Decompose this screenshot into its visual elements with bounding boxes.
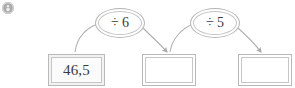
edge-box1-to-op1 (75, 24, 98, 52)
value-box-1[interactable]: 46,5 (48, 54, 105, 86)
operator-ellipse-1-inner: ÷ 6 (98, 11, 142, 35)
value-box-1-text: 46,5 (63, 63, 90, 78)
operator-ellipse-2-text: ÷ 5 (206, 16, 224, 30)
answer-box-2-inner (145, 57, 193, 83)
edge-box2-to-op2 (170, 24, 193, 52)
answer-box-2[interactable] (142, 54, 196, 86)
answer-box-3[interactable] (238, 54, 292, 86)
operator-ellipse-2[interactable]: ÷ 5 (190, 8, 240, 38)
operator-ellipse-2-inner: ÷ 5 (193, 11, 237, 35)
value-box-1-inner: 46,5 (51, 57, 102, 83)
edge-op1-to-box2 (143, 28, 167, 52)
edge-op2-to-box3 (238, 28, 261, 52)
operator-ellipse-1[interactable]: ÷ 6 (95, 8, 145, 38)
diagram-canvas: 46,5 ÷ 6 ÷ 5 (0, 0, 295, 88)
operator-ellipse-1-text: ÷ 6 (111, 16, 129, 30)
answer-box-3-inner (241, 57, 289, 83)
